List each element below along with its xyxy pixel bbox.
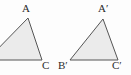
- vertex-label-a: A: [22, 3, 30, 14]
- vertex-label-b-prime: B′: [58, 60, 68, 71]
- geometry-figure: A C A′ B′ C′: [0, 0, 131, 75]
- vertex-label-c-prime: C′: [112, 60, 122, 71]
- triangle-a-prime-b-prime-c-prime-shape: [70, 19, 118, 60]
- vertex-label-a-prime: A′: [98, 3, 108, 14]
- vertex-label-c: C: [42, 60, 49, 71]
- triangle-abc-shape: [0, 18, 42, 60]
